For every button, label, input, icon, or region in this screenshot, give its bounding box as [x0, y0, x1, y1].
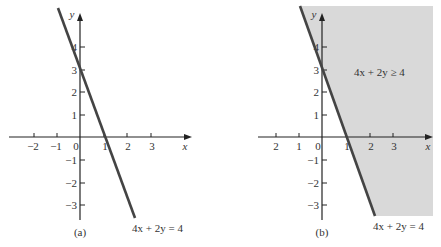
y-tick-label: −3 [65, 199, 77, 211]
x-tick-label: 0 [73, 140, 79, 152]
panel-label: (a) [74, 226, 87, 239]
x-tick-label: 3 [391, 140, 397, 152]
y-tick-label: −2 [307, 177, 319, 189]
y-axis-label: y [69, 8, 75, 20]
x-tick-label: 1 [296, 140, 302, 152]
panel-a: −2 −1 0 1 2 3 x 4 3 2 1 −1 −2 −3 y 4x + … [9, 8, 192, 239]
x-tick-label: 3 [149, 140, 155, 152]
y-tick-label: 1 [314, 109, 320, 121]
figure: −2 −1 0 1 2 3 x 4 3 2 1 −1 −2 −3 y 4x + … [0, 0, 441, 247]
y-tick-label: 1 [72, 109, 78, 121]
x-tick-label: −2 [27, 140, 39, 152]
x-tick-label: 2 [273, 140, 279, 152]
region-inequality-label: 4x + 2y ≥ 4 [354, 66, 405, 78]
y-arrow-icon [77, 13, 83, 21]
panel-label: (b) [316, 226, 329, 239]
line-equation-label: 4x + 2y = 4 [373, 220, 424, 232]
y-axis-label: y [311, 8, 317, 20]
x-tick-label: 2 [368, 140, 374, 152]
y-tick-label: −2 [65, 177, 77, 189]
x-axis-label: x [182, 140, 188, 152]
x-tick-label: −1 [50, 140, 62, 152]
panel-b: 2 1 0 1 2 3 x 4 3 2 1 −1 −2 −3 y 4x + 2y… [258, 6, 433, 239]
y-tick-label: −3 [307, 199, 319, 211]
y-tick-label: 2 [314, 86, 320, 98]
x-axis-label: x [425, 140, 431, 152]
y-tick-label: −1 [307, 154, 319, 166]
x-tick-label: 2 [125, 140, 131, 152]
y-tick-label: 3 [72, 64, 78, 76]
solution-region [300, 6, 433, 216]
line-equation-label: 4x + 2y = 4 [132, 222, 183, 234]
y-tick-label: 2 [72, 86, 78, 98]
y-tick-label: 3 [314, 64, 320, 76]
y-tick-label: −1 [65, 154, 77, 166]
x-tick-label: 0 [315, 140, 321, 152]
